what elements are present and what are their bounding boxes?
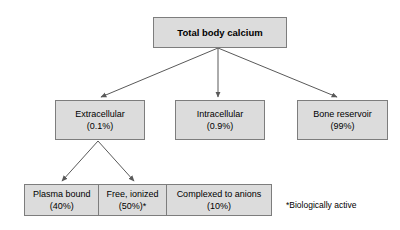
- node-total-body-calcium[interactable]: Total body calcium: [153, 17, 287, 48]
- node-complexed-to-anions-label: Complexed to anions: [177, 188, 262, 200]
- node-plasma-bound-value: (40%): [50, 200, 74, 212]
- node-free-ionized-label: Free, ionized: [107, 188, 159, 200]
- footnote-biologically-active: *Biologically active: [286, 200, 356, 211]
- node-bone-reservoir-value: (99%): [330, 120, 354, 132]
- diagram-canvas: Total body calcium Extracellular (0.1%) …: [0, 0, 400, 230]
- node-plasma-bound-label: Plasma bound: [33, 188, 91, 200]
- arrow-extracellular-to-free-ionized: [98, 141, 134, 181]
- node-extracellular[interactable]: Extracellular (0.1%): [55, 100, 145, 140]
- arrow-total-to-bone: [218, 48, 337, 97]
- node-extracellular-label: Extracellular: [75, 108, 125, 120]
- node-complexed-to-anions-value: (10%): [207, 200, 231, 212]
- node-total-body-calcium-label: Total body calcium: [177, 27, 262, 39]
- node-free-ionized-value: (50%)*: [119, 200, 147, 212]
- node-row-extracellular-fractions: Plasma bound (40%) Free, ionized (50%)* …: [24, 184, 272, 216]
- node-extracellular-value: (0.1%): [87, 120, 114, 132]
- node-intracellular[interactable]: Intracellular (0.9%): [175, 100, 265, 140]
- node-free-ionized[interactable]: Free, ionized (50%)*: [99, 185, 166, 215]
- node-bone-reservoir-label: Bone reservoir: [313, 108, 372, 120]
- node-plasma-bound[interactable]: Plasma bound (40%): [25, 185, 99, 215]
- node-complexed-to-anions[interactable]: Complexed to anions (10%): [167, 185, 271, 215]
- node-intracellular-value: (0.9%): [207, 120, 234, 132]
- arrow-extracellular-to-plasma-bound: [62, 141, 98, 181]
- node-intracellular-label: Intracellular: [197, 108, 244, 120]
- arrow-total-to-extracellular: [101, 48, 218, 97]
- node-bone-reservoir[interactable]: Bone reservoir (99%): [297, 100, 388, 140]
